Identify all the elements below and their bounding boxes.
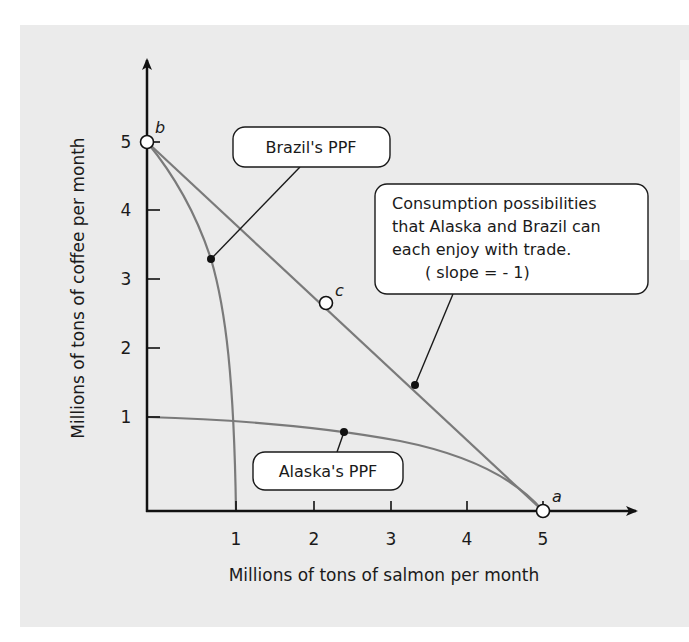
x-axis-title: Millions of tons of salmon per month [229,565,540,585]
y-tick-label: 3 [121,269,132,289]
y-tick-label: 5 [121,132,132,152]
x-tick-label: 3 [386,529,397,549]
consumption-callout-line3: each enjoy with trade. [392,240,571,259]
brazil-ppf-marker [207,255,215,263]
y-axis-title: Millions of tons of coffee per month [68,137,88,438]
point-a: a [537,487,562,518]
consumption-leader [415,294,453,385]
ppf-chart: 1 2 3 4 5 1 2 3 4 5 Millions of tons of … [0,0,689,642]
brazil-ppf-curve [147,142,236,511]
y-tick-marks [147,142,160,417]
x-tick-label: 5 [538,529,549,549]
consumption-callout-line2: that Alaska and Brazil can [392,217,601,236]
point-c: c [320,281,345,310]
point-c-marker [320,297,333,310]
point-b: b [141,118,166,149]
consumption-line-marker [411,381,419,389]
x-tick-marks [236,501,543,511]
brazil-ppf-callout-text: Brazil's PPF [266,138,357,157]
y-tick-labels: 1 2 3 4 5 [121,132,132,427]
y-tick-label: 4 [121,200,132,220]
alaska-ppf-callout-text: Alaska's PPF [279,462,378,481]
x-tick-label: 4 [462,529,473,549]
point-a-label: a [552,487,562,506]
point-b-label: b [155,118,165,137]
point-b-marker [141,136,154,149]
consumption-callout: Consumption possibilities that Alaska an… [375,184,648,294]
x-tick-label: 2 [309,529,320,549]
y-tick-label: 1 [121,407,132,427]
x-tick-labels: 1 2 3 4 5 [231,529,549,549]
y-tick-label: 2 [121,338,132,358]
consumption-callout-line4: ( slope = - 1) [425,263,530,282]
brazil-ppf-callout: Brazil's PPF [233,127,390,167]
point-a-marker [537,505,550,518]
consumption-callout-line1: Consumption possibilities [392,194,597,213]
alaska-ppf-callout: Alaska's PPF [253,452,403,490]
x-tick-label: 1 [231,529,242,549]
point-c-label: c [335,281,344,300]
alaska-ppf-marker [340,428,348,436]
